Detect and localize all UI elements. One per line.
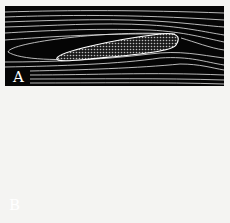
panel-a-label: A: [13, 70, 24, 85]
airflow-diagram: [0, 0, 230, 223]
panel-b-label: B: [9, 198, 20, 213]
panel-a: [5, 6, 224, 86]
